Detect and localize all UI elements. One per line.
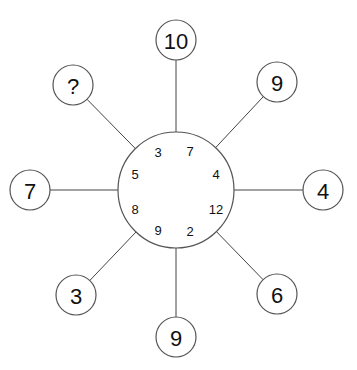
segment-value-top-left-upper: 3 xyxy=(154,145,161,160)
outer-node-top: 10 xyxy=(156,20,196,60)
outer-value: 9 xyxy=(271,71,283,96)
segment-value-right-upper: 4 xyxy=(212,167,219,182)
outer-node-right: 4 xyxy=(303,170,343,210)
outer-value: 4 xyxy=(317,179,329,204)
outer-value: 7 xyxy=(24,179,36,204)
segment-value-left-lower: 8 xyxy=(131,202,138,217)
segment-value-bottom-left-lower: 9 xyxy=(154,223,161,238)
outer-node-left: 7 xyxy=(10,170,50,210)
outer-value: 3 xyxy=(70,284,82,309)
center-circle xyxy=(118,132,234,248)
outer-value: ? xyxy=(67,74,79,99)
number-wheel-puzzle: 374122985 10946937? xyxy=(0,0,357,370)
outer-value: 6 xyxy=(271,283,283,308)
segment-value-bottom-right-lower: 2 xyxy=(186,224,193,239)
segment-value-right-lower: 12 xyxy=(209,202,223,217)
outer-node-bottom-right: 6 xyxy=(257,274,297,314)
outer-node-top-left: ? xyxy=(53,65,93,105)
outer-node-top-right: 9 xyxy=(257,62,297,102)
outer-value: 10 xyxy=(164,29,188,54)
segment-value-top-right-upper: 7 xyxy=(186,144,193,159)
outer-value: 9 xyxy=(170,326,182,351)
outer-node-bottom-left: 3 xyxy=(56,275,96,315)
outer-node-bottom: 9 xyxy=(156,317,196,357)
segment-value-left-upper: 5 xyxy=(131,167,138,182)
